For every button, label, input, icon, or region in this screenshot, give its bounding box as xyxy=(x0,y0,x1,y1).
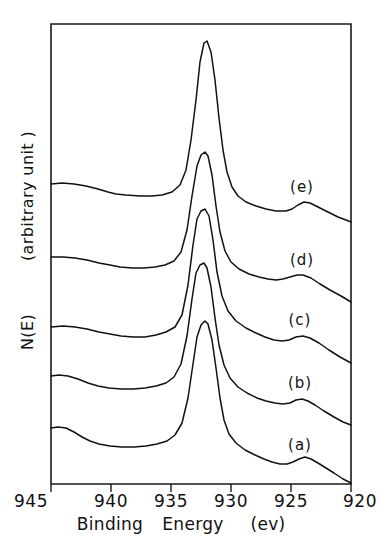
xtick-label-930: 930 xyxy=(214,491,248,511)
x-axis-title-binding: Binding xyxy=(77,514,143,534)
xtick-label-925: 925 xyxy=(274,491,308,511)
xtick-label-945: 945 xyxy=(14,491,48,511)
curve-label-d: (d) xyxy=(290,251,314,269)
spectrum-curve-c xyxy=(51,209,351,363)
figure-page: (e) (d) (c) (b) (a) 945 940 935 930 925 … xyxy=(0,0,387,544)
x-axis-title-units: (ev) xyxy=(251,514,286,534)
y-axis-title-ne: N(E) xyxy=(18,314,37,350)
curve-label-b: (b) xyxy=(288,374,312,392)
curve-label-c: (c) xyxy=(289,311,312,329)
spectrum-curve-b xyxy=(51,263,351,425)
x-axis-title-energy: Energy xyxy=(162,514,223,534)
curve-label-e: (e) xyxy=(290,178,314,196)
xtick-label-935: 935 xyxy=(154,491,188,511)
xps-spectra-figure: (e) (d) (c) (b) (a) 945 940 935 930 925 … xyxy=(0,0,387,544)
curve-label-a: (a) xyxy=(288,436,312,454)
xtick-label-920: 920 xyxy=(343,491,377,511)
xtick-label-940: 940 xyxy=(94,491,128,511)
spectrum-curve-d xyxy=(51,152,351,302)
spectrum-curve-a xyxy=(51,321,351,483)
y-axis-title-arbitrary-unit: (arbitrary unit ) xyxy=(18,131,37,261)
